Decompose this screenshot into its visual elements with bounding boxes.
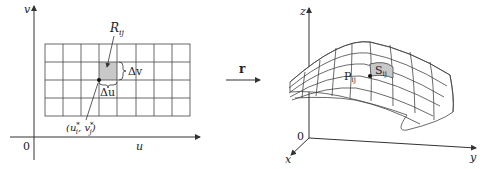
parametric-surface-diagram: v 0 u Rij Δv Δu: [0, 0, 494, 169]
surface-s: [289, 42, 454, 131]
sample-point: [97, 78, 101, 82]
mapping-r: r: [226, 62, 260, 80]
y-axis-label: y: [469, 151, 477, 164]
origin-label-xyz: 0: [297, 130, 304, 143]
uv-plane: v 0 u Rij Δv Δu: [10, 3, 200, 160]
sample-point-leader: [86, 83, 98, 120]
v-axis-label: v: [24, 3, 31, 16]
partition-grid: [45, 44, 190, 116]
x-axis-label: x: [285, 153, 292, 166]
mapping-label: r: [239, 62, 246, 76]
origin-label-uv: 0: [23, 140, 30, 153]
delta-v-label: Δv: [128, 65, 143, 78]
delta-v-brace: [119, 62, 126, 80]
delta-u-label: Δu: [100, 86, 115, 99]
sample-point-label: (u*i, v*j): [66, 121, 96, 136]
z-axis-label: z: [299, 5, 306, 18]
region-rij: [99, 62, 117, 80]
region-label: Rij: [109, 21, 125, 37]
u-axis-label: u: [136, 140, 143, 153]
y-axis: [309, 138, 476, 148]
point-pij: [368, 74, 372, 78]
xyz-space: z y x 0 Sij: [285, 5, 477, 166]
